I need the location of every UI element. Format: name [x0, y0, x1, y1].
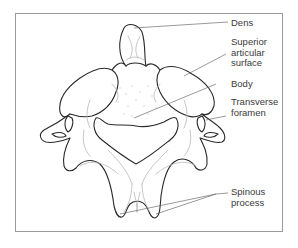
- leader-spinous-process-2: [156, 194, 216, 214]
- leader-dens: [134, 22, 228, 28]
- label-superior-articular-surface: Superior articular surface: [231, 37, 267, 69]
- label-transverse-foramen: Transverse foramen: [231, 97, 278, 118]
- label-body: Body: [231, 79, 253, 90]
- label-dens: Dens: [231, 18, 253, 29]
- leader-transverse-foramen: [206, 116, 226, 120]
- label-spinous-process: Spinous process: [231, 187, 265, 208]
- leader-superior-articular-surface: [184, 54, 226, 76]
